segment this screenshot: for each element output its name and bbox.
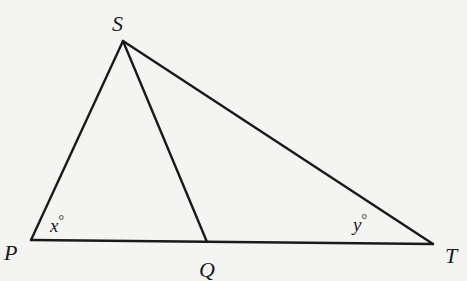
segment-pt	[31, 240, 433, 244]
angle-variable-y: y	[351, 214, 362, 235]
segment-sq	[123, 41, 207, 242]
angle-label-x: x°	[49, 213, 64, 236]
vertex-label-t: T	[445, 243, 459, 268]
segment-st	[123, 41, 433, 244]
vertex-label-p: P	[3, 240, 17, 265]
degree-symbol-x: °	[58, 213, 64, 228]
vertex-label-q: Q	[199, 257, 215, 281]
triangle-diagram: S P Q T x° y°	[0, 0, 467, 281]
degree-symbol-y: °	[361, 212, 367, 227]
segment-sp	[31, 41, 123, 240]
vertex-label-s: S	[112, 11, 123, 36]
angle-label-y: y°	[351, 212, 367, 235]
